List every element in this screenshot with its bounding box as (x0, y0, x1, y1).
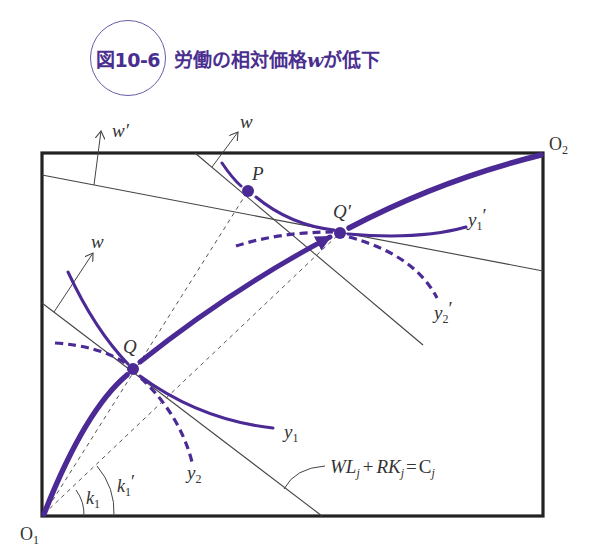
label-wage-w-top: w (240, 111, 253, 132)
label-y2: y2 (185, 462, 201, 486)
edgeworth-box-frame (42, 153, 543, 516)
ray-to-p (44, 191, 248, 514)
label-o1: O1 (20, 524, 39, 547)
contract-curve-upper (349, 155, 541, 228)
point-q-prime-dot (334, 227, 346, 239)
wage-arrow-top (212, 132, 238, 167)
edgeworth-box-svg: O2 O1 P Q Q′ y1′ y2′ y1 y2 w w w′ k1 k1′… (0, 0, 603, 559)
cost-equation-leader (284, 466, 325, 489)
label-y1: y1 (282, 421, 298, 445)
diagram-figure: 図10-6 労働の相対価格wが低下 (0, 0, 603, 559)
label-y1-prime: y1′ (466, 205, 487, 233)
isocost-line-q (42, 303, 322, 516)
label-k1-prime: k1′ (117, 472, 135, 499)
wage-arrow-prime (94, 131, 101, 185)
label-q-prime: Q′ (333, 201, 352, 222)
isoquant-y2-prime (236, 232, 437, 298)
label-wage-w-left: w (91, 231, 104, 252)
point-q-dot (127, 363, 139, 375)
label-o2: O2 (549, 134, 568, 157)
label-cost-equation: WLj+RKj=Cj (330, 456, 436, 480)
label-q: Q (123, 336, 137, 357)
label-p: P (251, 163, 264, 184)
label-y2-prime: y2′ (432, 298, 453, 326)
angle-arc-k1 (76, 490, 84, 516)
point-p-dot (242, 185, 254, 197)
contract-curve-arrow (140, 237, 330, 362)
label-k1: k1 (86, 488, 100, 511)
label-wage-w-prime: w′ (112, 120, 130, 141)
